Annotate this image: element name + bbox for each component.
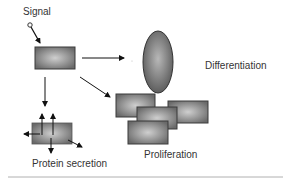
differentiated-cell-node — [143, 31, 173, 93]
protein-secretion-label: Protein secretion — [32, 159, 107, 169]
differentiation-label: Differentiation — [205, 61, 267, 71]
signal-label: Signal — [23, 7, 51, 17]
signal-molecule-icon — [28, 23, 32, 27]
proliferation-label: Proliferation — [144, 150, 197, 160]
dot-artifact — [131, 60, 132, 61]
arrow-to-proliferation — [80, 77, 110, 97]
secretion-arrows — [24, 114, 82, 153]
proliferation-cluster — [116, 94, 208, 144]
cell-node — [35, 47, 75, 69]
signal-arrow — [31, 27, 40, 43]
